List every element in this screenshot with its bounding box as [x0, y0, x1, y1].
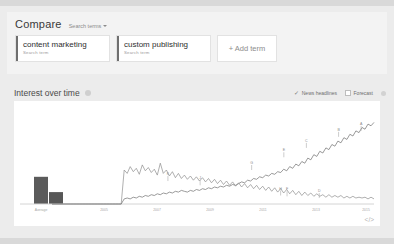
- section-title: Interest over time: [14, 88, 80, 98]
- svg-text:2011: 2011: [259, 208, 266, 212]
- trends-page: Compare Search terms content marketing S…: [0, 6, 394, 238]
- trends-line-chart: ABCEGDFHJKAverage20052007200920112013201…: [14, 101, 380, 226]
- svg-text:B: B: [337, 128, 340, 132]
- code-embed-icon[interactable]: </>: [365, 216, 374, 223]
- svg-text:F: F: [286, 187, 289, 191]
- toggle-forecast-label: Forecast: [354, 90, 373, 96]
- svg-text:2005: 2005: [100, 208, 108, 212]
- search-term-list: content marketing Search term custom pub…: [7, 30, 387, 62]
- svg-text:2015: 2015: [362, 208, 370, 212]
- svg-text:G: G: [250, 161, 253, 165]
- search-term-card-1[interactable]: content marketing Search term: [15, 35, 110, 62]
- interest-over-time-header: Interest over time ✓ News headlines Fore…: [14, 86, 386, 100]
- help-circle-icon[interactable]: [85, 90, 91, 96]
- search-terms-dropdown-label: Search terms: [69, 23, 102, 29]
- add-term-button[interactable]: + Add term: [217, 35, 277, 62]
- svg-text:C: C: [305, 139, 308, 143]
- toggle-news-headlines-label: News headlines: [302, 90, 337, 96]
- svg-text:Average: Average: [35, 208, 48, 212]
- svg-text:D: D: [318, 189, 321, 193]
- svg-text:2009: 2009: [206, 208, 214, 212]
- compare-title: Compare: [15, 18, 62, 30]
- search-term-name: custom publishing: [124, 40, 210, 49]
- compare-card: Compare Search terms content marketing S…: [7, 12, 387, 74]
- svg-text:2013: 2013: [312, 208, 320, 212]
- chart-toggles: ✓ News headlines Forecast: [294, 90, 386, 96]
- checkbox-icon: [345, 90, 351, 96]
- search-term-name: content marketing: [23, 40, 109, 49]
- compare-header: Compare Search terms: [7, 12, 387, 30]
- svg-text:2007: 2007: [153, 208, 161, 212]
- toggle-forecast[interactable]: Forecast: [345, 90, 373, 96]
- help-circle-icon-2[interactable]: [381, 91, 386, 96]
- search-term-subtitle: Search term: [23, 50, 109, 55]
- search-term-card-2[interactable]: custom publishing Search term: [116, 35, 211, 62]
- svg-text:E: E: [283, 148, 286, 152]
- chevron-down-icon: [103, 25, 107, 27]
- svg-text:J: J: [199, 176, 201, 180]
- check-icon: ✓: [294, 90, 299, 96]
- svg-text:H: H: [279, 187, 282, 191]
- interest-over-time-chart[interactable]: ABCEGDFHJKAverage20052007200920112013201…: [14, 101, 380, 226]
- search-term-subtitle: Search term: [124, 50, 210, 55]
- search-terms-dropdown[interactable]: Search terms: [69, 23, 108, 29]
- svg-text:A: A: [360, 122, 363, 126]
- toggle-news-headlines[interactable]: ✓ News headlines: [294, 90, 337, 96]
